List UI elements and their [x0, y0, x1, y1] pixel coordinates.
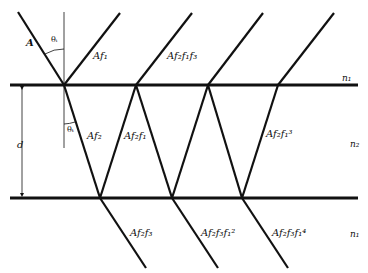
internal-ray-6-up [242, 85, 278, 198]
theta-i-label: θᵢ [51, 36, 57, 44]
theta-t-arc [64, 122, 75, 124]
internal-ray-5-down [208, 85, 242, 198]
incident-ray [18, 12, 64, 85]
reflected-label-1: Af₁ [93, 51, 108, 61]
transmitted-label-1: Af₂f₃ [130, 228, 152, 238]
medium-top-label: n₁ [342, 74, 351, 83]
medium-film-label: n₂ [350, 140, 359, 149]
reflected-label-2: Af₂f₁f₃ [167, 51, 197, 61]
internal-ray-2-up [100, 85, 136, 198]
transmitted-label-3: Af₂f₃f₁⁴ [272, 228, 306, 238]
thickness-label: d [17, 140, 23, 150]
internal-ray-4-up [172, 85, 208, 198]
theta-i-arc [45, 49, 64, 54]
internal-label-1: Af₂ [87, 131, 102, 141]
incident-amplitude-label: A [26, 38, 34, 48]
internal-label-3: Af₂f₁³ [266, 129, 292, 139]
medium-bottom-label: n₁ [350, 230, 359, 239]
theta-t-label: θₜ [67, 126, 74, 134]
internal-label-2: Af₂f₁ [124, 131, 146, 141]
internal-ray-3-down [136, 85, 172, 198]
transmitted-label-2: Af₂f₃f₁² [201, 228, 235, 238]
internal-ray-1-down [64, 85, 100, 198]
